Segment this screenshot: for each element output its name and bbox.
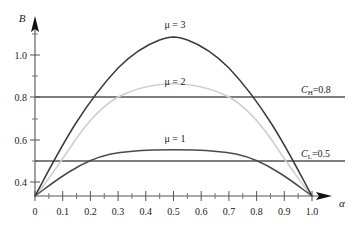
x-axis-label: α xyxy=(339,197,345,209)
y-axis-label: B xyxy=(19,12,26,24)
curve-label-mu-1: μ = 1 xyxy=(164,133,185,144)
x-tick-label-0.4: 0.4 xyxy=(140,206,153,217)
x-tick-label-0.6: 0.6 xyxy=(195,206,208,217)
x-tick-label-0: 0 xyxy=(33,206,38,217)
y-tick-label-0.8: 0.8 xyxy=(15,92,28,103)
y-tick-label-0.4: 0.4 xyxy=(15,177,28,188)
chart-background xyxy=(0,0,353,238)
y-tick-label-1.0: 1.0 xyxy=(15,50,28,61)
y-tick-label-0.6: 0.6 xyxy=(15,135,28,146)
x-tick-label-0.5: 0.5 xyxy=(167,206,180,217)
curve-label-mu-3: μ = 3 xyxy=(164,19,185,30)
x-tick-label-0.2: 0.2 xyxy=(84,206,97,217)
chart-figure: 1.0 0.8 0.6 0.4 0 0.1 0.2 0.3 0.4 0.5 0.… xyxy=(0,0,353,238)
ref-cl-value: =0.5 xyxy=(312,148,330,159)
curve-label-mu-2: μ = 2 xyxy=(164,76,185,87)
chart-svg: 1.0 0.8 0.6 0.4 0 0.1 0.2 0.3 0.4 0.5 0.… xyxy=(0,0,353,238)
x-tick-label-0.3: 0.3 xyxy=(112,206,125,217)
x-tick-label-0.7: 0.7 xyxy=(223,206,236,217)
ref-ch-value: =0.8 xyxy=(313,84,331,95)
x-tick-label-0.8: 0.8 xyxy=(250,206,263,217)
x-tick-label-1.0: 1.0 xyxy=(306,206,319,217)
x-tick-label-0.9: 0.9 xyxy=(278,206,291,217)
x-tick-label-0.1: 0.1 xyxy=(56,206,69,217)
